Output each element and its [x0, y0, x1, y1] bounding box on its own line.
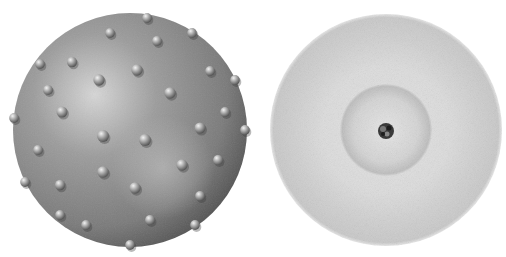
- particle-bump: [9, 113, 19, 123]
- particle-bump: [240, 125, 250, 135]
- nucleus: [378, 123, 394, 139]
- particle-bump: [55, 180, 65, 190]
- studded-sphere-illustration: [0, 0, 253, 257]
- particle-bump: [145, 215, 155, 225]
- particle-bump: [176, 159, 187, 170]
- particle-bump: [20, 177, 30, 187]
- particle-bump: [43, 85, 53, 95]
- particle-bump: [190, 220, 200, 230]
- electron-cloud-panel: [253, 0, 506, 257]
- particle-bump: [81, 220, 91, 230]
- particle-bump: [139, 134, 151, 146]
- particle-bump: [67, 57, 77, 67]
- particle-bump: [35, 59, 45, 69]
- particle-bump: [220, 107, 230, 117]
- particle-bump: [131, 64, 142, 75]
- particle-bump: [97, 130, 109, 142]
- particle-bump: [97, 166, 108, 178]
- sphere-model-panel: [0, 0, 253, 257]
- particle-bump: [195, 122, 206, 133]
- particle-bump: [205, 66, 215, 76]
- particle-bump: [129, 182, 140, 193]
- particle-bump: [152, 36, 162, 46]
- particle-bump: [142, 13, 152, 23]
- particle-bump: [195, 191, 205, 201]
- particle-bump: [230, 75, 240, 85]
- particle-bump: [33, 145, 43, 155]
- particle-bump: [93, 74, 104, 85]
- electron-cloud-illustration: [253, 0, 506, 257]
- particle-bump: [125, 240, 135, 250]
- particle-bump: [57, 106, 68, 117]
- particle-bump: [187, 28, 197, 38]
- particle-bump: [105, 28, 115, 38]
- particle-bump: [213, 155, 223, 165]
- particle-bump: [55, 210, 65, 220]
- particle-bump: [164, 87, 175, 98]
